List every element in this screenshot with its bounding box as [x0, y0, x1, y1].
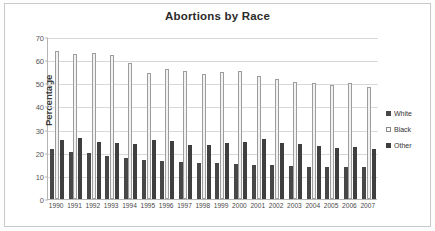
- x-tick-label-1994: 1994: [120, 202, 138, 209]
- bar-white-2002: [270, 165, 274, 199]
- x-tick-label-2001: 2001: [249, 202, 267, 209]
- bar-white-2003: [289, 166, 293, 199]
- bar-group-1999: [213, 37, 231, 199]
- x-tick-label-1991: 1991: [65, 202, 83, 209]
- bar-other-1999: [225, 143, 229, 199]
- bar-other-2001: [262, 139, 266, 199]
- bar-groups: [48, 37, 378, 199]
- bar-group-1997: [176, 37, 194, 199]
- legend-label-other: Other: [394, 142, 412, 149]
- bar-group-1994: [121, 37, 139, 199]
- bar-white-2001: [252, 165, 256, 199]
- bar-group-1993: [103, 37, 121, 199]
- bar-other-1998: [207, 145, 211, 199]
- bar-group-2005: [323, 37, 341, 199]
- y-tick-label-70: 70: [36, 34, 44, 43]
- bar-other-1997: [188, 145, 192, 199]
- bar-black-2005: [330, 85, 334, 199]
- bar-black-2007: [367, 87, 371, 199]
- bar-white-1990: [50, 149, 54, 199]
- bar-group-2000: [231, 37, 249, 199]
- bar-other-1990: [60, 140, 64, 199]
- legend-item-other[interactable]: Other: [386, 142, 412, 149]
- bar-white-1992: [87, 153, 91, 199]
- y-tick-label-20: 20: [36, 149, 44, 158]
- bar-other-2007: [372, 149, 376, 199]
- bar-white-1991: [69, 152, 73, 199]
- bar-black-2000: [238, 71, 242, 199]
- bar-group-2006: [341, 37, 359, 199]
- bar-white-1995: [142, 160, 146, 199]
- bar-black-1994: [128, 63, 132, 199]
- bar-group-2002: [268, 37, 286, 199]
- y-tick-label-40: 40: [36, 103, 44, 112]
- bar-white-2000: [234, 164, 238, 199]
- legend-item-white[interactable]: White: [386, 110, 412, 117]
- bar-group-1991: [66, 37, 84, 199]
- legend-label-white: White: [394, 110, 412, 117]
- y-tick-label-10: 10: [36, 172, 44, 181]
- bar-white-1994: [124, 158, 128, 199]
- bar-black-1992: [92, 53, 96, 199]
- bar-black-1997: [183, 71, 187, 199]
- x-axis-labels: 1990199119921993199419951996199719981999…: [47, 202, 377, 209]
- bar-white-1998: [197, 163, 201, 199]
- bar-group-2004: [305, 37, 323, 199]
- bar-black-1990: [55, 51, 59, 199]
- x-tick-label-2004: 2004: [304, 202, 322, 209]
- chart-title: Abortions by Race: [0, 10, 435, 22]
- x-tick-label-1998: 1998: [194, 202, 212, 209]
- plot-area: Percentage 010203040506070: [47, 38, 377, 200]
- bar-other-2005: [335, 148, 339, 199]
- bar-black-1991: [73, 54, 77, 199]
- bar-black-1998: [202, 74, 206, 199]
- y-tick-label-30: 30: [36, 126, 44, 135]
- bar-group-2001: [250, 37, 268, 199]
- x-tick-label-2007: 2007: [359, 202, 377, 209]
- bar-white-2006: [344, 167, 348, 199]
- x-tick-label-1992: 1992: [84, 202, 102, 209]
- bar-other-1994: [133, 144, 137, 199]
- bar-white-2007: [362, 167, 366, 199]
- legend-label-black: Black: [394, 126, 411, 133]
- y-tick-label-60: 60: [36, 57, 44, 66]
- swatch-white-icon: [386, 111, 391, 116]
- bar-group-1990: [48, 37, 66, 199]
- x-tick-label-1999: 1999: [212, 202, 230, 209]
- bar-group-2007: [360, 37, 378, 199]
- y-tick-label-0: 0: [40, 196, 44, 205]
- bar-white-1996: [160, 161, 164, 199]
- x-tick-label-1990: 1990: [47, 202, 65, 209]
- bar-white-2005: [325, 167, 329, 199]
- bar-other-2003: [298, 144, 302, 199]
- bar-black-1999: [220, 72, 224, 199]
- bar-white-2004: [307, 167, 311, 199]
- x-tick-label-1997: 1997: [175, 202, 193, 209]
- y-tick-label-50: 50: [36, 80, 44, 89]
- bar-other-1995: [152, 140, 156, 199]
- bar-white-1993: [105, 156, 109, 200]
- swatch-other-icon: [386, 143, 391, 148]
- bar-other-2004: [317, 146, 321, 199]
- bar-white-1997: [179, 162, 183, 199]
- x-tick-label-2000: 2000: [230, 202, 248, 209]
- bar-black-2004: [312, 83, 316, 199]
- x-tick-label-1996: 1996: [157, 202, 175, 209]
- bar-group-1998: [195, 37, 213, 199]
- legend-item-black[interactable]: Black: [386, 126, 412, 133]
- swatch-black-icon: [386, 127, 391, 132]
- bar-black-1996: [165, 69, 169, 199]
- bar-other-1993: [115, 143, 119, 199]
- bar-white-1999: [215, 163, 219, 199]
- bar-other-1991: [78, 138, 82, 199]
- bar-other-1996: [170, 141, 174, 199]
- x-tick-label-2005: 2005: [322, 202, 340, 209]
- bar-other-2000: [243, 142, 247, 199]
- bar-black-2002: [275, 79, 279, 199]
- bar-other-2002: [280, 143, 284, 199]
- chart-legend: WhiteBlackOther: [386, 110, 412, 158]
- bar-group-2003: [286, 37, 304, 199]
- y-tick-mark-0: [45, 200, 48, 201]
- chart-figure: Abortions by Race Percentage 01020304050…: [0, 0, 435, 231]
- bar-group-1992: [85, 37, 103, 199]
